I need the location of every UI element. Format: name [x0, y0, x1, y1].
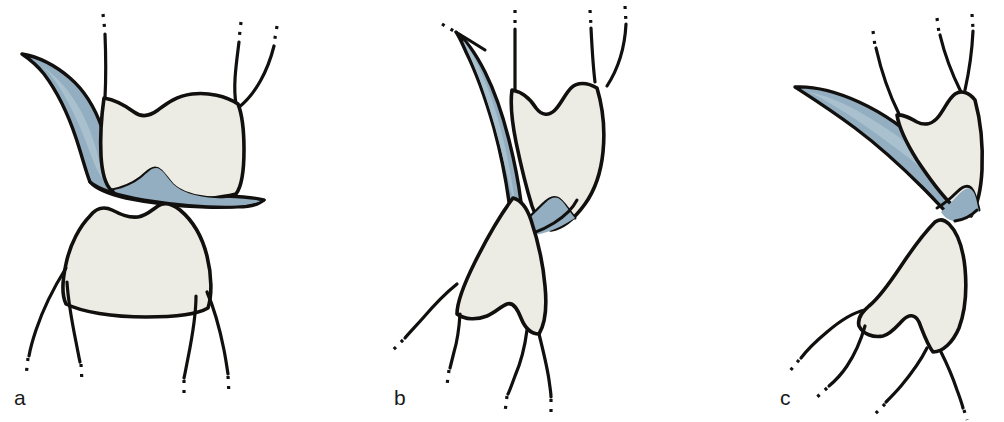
panel-a: a — [0, 0, 335, 422]
figure-root: a — [0, 0, 1004, 422]
panel-label-a: a — [14, 387, 26, 408]
lower-molar-a — [63, 204, 211, 317]
panel-a-illustration — [0, 0, 335, 422]
panel-label-b: b — [394, 387, 406, 408]
panel-b-illustration — [335, 0, 670, 422]
panel-c-illustration — [669, 0, 1004, 422]
panel-b: b — [335, 0, 670, 422]
panel-c: c — [669, 0, 1004, 422]
lower-molar-c — [859, 220, 966, 352]
panel-label-c: c — [780, 387, 791, 408]
